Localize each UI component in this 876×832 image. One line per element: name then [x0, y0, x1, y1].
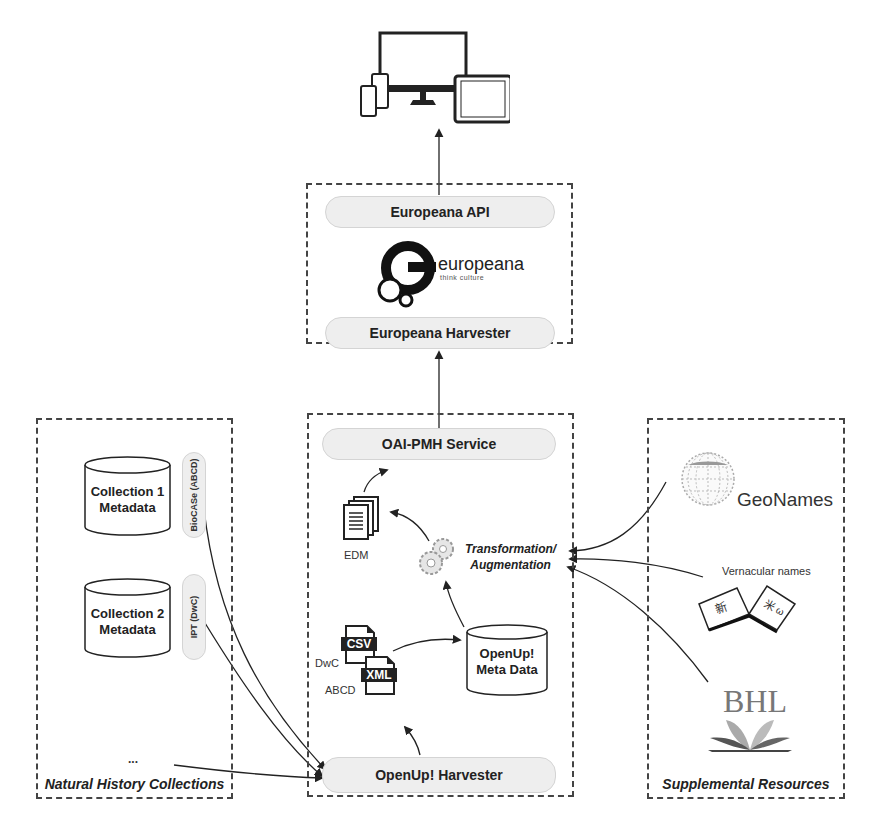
openup-harvester-pill[interactable]: OpenUp! Harvester — [322, 757, 556, 793]
collection-1-title: Collection 1 — [84, 484, 171, 500]
vernacular-book-icon: 新 米 ω — [697, 584, 797, 634]
biocase-service-label: BioCASe (ABCD) — [189, 459, 199, 532]
edm-documents-icon — [342, 496, 382, 542]
gears-icon — [418, 535, 458, 577]
europeana-api-pill[interactable]: Europeana API — [325, 196, 555, 228]
transformation-label: Transformation/ Augmentation — [465, 541, 556, 573]
collections-group-title: Natural History Collections — [38, 776, 231, 792]
europeana-logo: europeana think culture — [376, 238, 516, 308]
bhl-label: BHL — [723, 683, 787, 720]
europeana-api-label: Europeana API — [390, 204, 489, 220]
geonames-label: GeoNames — [737, 489, 833, 511]
transformation-line-2: Augmentation — [465, 557, 556, 573]
supplemental-group-title: Supplemental Resources — [649, 776, 843, 792]
aggregator-group: Natural History Aggregator — [307, 413, 574, 797]
openup-metadata-subtitle: Meta Data — [466, 662, 548, 678]
openup-metadata-title: OpenUp! — [466, 646, 548, 662]
edm-label: EDM — [344, 549, 368, 561]
europeana-harvester-label: Europeana Harvester — [370, 325, 511, 341]
collection-2-database: Collection 2 Metadata — [84, 578, 171, 658]
collection-1-subtitle: Metadata — [84, 500, 171, 516]
europeana-harvester-pill[interactable]: Europeana Harvester — [325, 317, 555, 349]
oai-pmh-service-pill[interactable]: OAI-PMH Service — [322, 428, 556, 460]
more-collections-ellipsis: ... — [128, 752, 138, 766]
csv-badge: CSV — [341, 637, 377, 651]
europeana-logo-text: europeana — [438, 254, 524, 275]
europeana-logo-mark-icon — [376, 238, 446, 308]
ipt-service-label: IPT (DwC) — [189, 596, 199, 639]
dwc-label: DwC — [315, 657, 339, 669]
collection-1-database: Collection 1 Metadata — [84, 456, 171, 536]
openup-harvester-label: OpenUp! Harvester — [375, 767, 503, 783]
biocase-service-pill[interactable]: BioCASe (ABCD) — [182, 452, 206, 538]
xml-badge: XML — [361, 668, 397, 682]
transformation-line-1: Transformation/ — [465, 541, 556, 557]
geonames-globe-icon — [680, 451, 736, 507]
multi-device-icon — [360, 28, 510, 128]
openup-metadata-database: OpenUp! Meta Data — [466, 624, 548, 696]
collection-2-title: Collection 2 — [84, 606, 171, 622]
abcd-label: ABCD — [325, 684, 356, 696]
vernacular-names-label: Vernacular names — [722, 565, 811, 577]
bhl-book-icon — [708, 718, 792, 752]
europeana-logo-tagline: think culture — [440, 274, 484, 281]
oai-pmh-service-label: OAI-PMH Service — [382, 436, 496, 452]
xml-file-icon: XML — [361, 656, 397, 696]
collection-2-subtitle: Metadata — [84, 622, 171, 638]
ipt-service-pill[interactable]: IPT (DwC) — [182, 574, 206, 660]
